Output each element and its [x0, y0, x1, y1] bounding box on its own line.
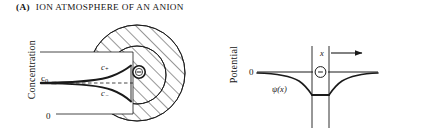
- tick-label-zero-left: 0: [46, 111, 51, 121]
- tick-label-c0: c0: [41, 73, 48, 84]
- y-axis-label-potential: Potential: [228, 46, 239, 83]
- page-title: ION ATMOSPHERE OF AN ANION: [36, 2, 184, 12]
- curve-label-psi: ψ(x): [272, 84, 287, 94]
- curve-psi-right: [329, 73, 378, 95]
- panel-potential: Potential 0 ψ(x) x: [210, 18, 421, 130]
- figure-title: (A)ION ATMOSPHERE OF AN ANION: [16, 2, 184, 12]
- y-axis-label-concentration: Concentration: [26, 40, 37, 99]
- panel-letter: (A): [16, 2, 30, 12]
- figure-root: (A)ION ATMOSPHERE OF AN ANION Concentrat…: [0, 0, 421, 130]
- curve-label-c-plus: c+: [101, 62, 109, 72]
- curve-label-c-plus-subscript: +: [105, 66, 109, 72]
- panel-concentration: Concentration c0 0 c+ c−: [0, 18, 210, 130]
- x-axis-label: x: [320, 48, 324, 58]
- tick-label-zero-right: 0: [249, 67, 254, 77]
- potential-diagram-svg: [210, 18, 421, 130]
- central-anion-icon: [133, 66, 145, 78]
- curve-label-c-minus: c−: [101, 88, 109, 98]
- tick-label-c0-subscript: 0: [45, 77, 48, 84]
- curve-label-c-minus-subscript: −: [105, 92, 109, 98]
- central-anion-icon-potential: [315, 67, 326, 78]
